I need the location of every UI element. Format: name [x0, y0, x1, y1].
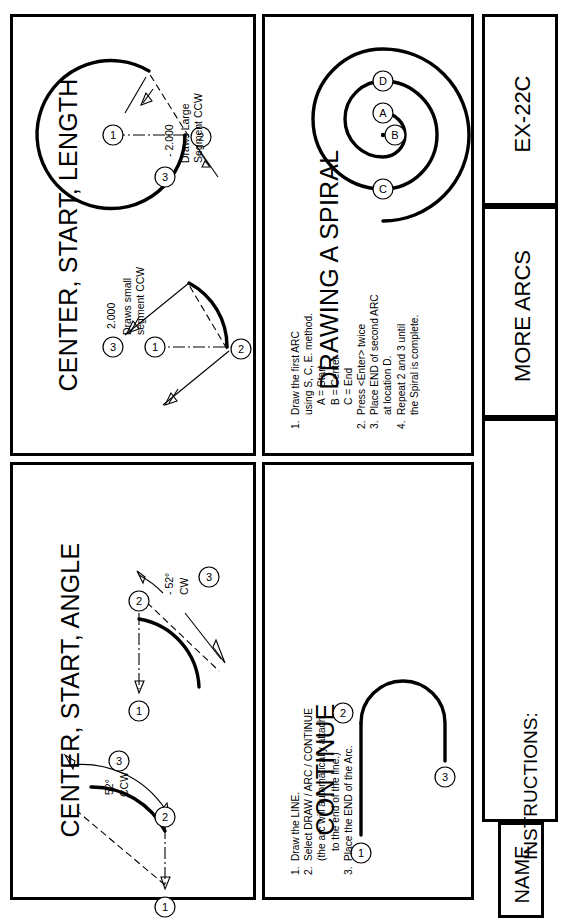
panel-center-start-length: CENTER, START, LENGTH 1 2 — [10, 14, 256, 456]
svg-text:1: 1 — [136, 705, 142, 717]
large-segment-annotation: - 2.000 — [163, 124, 176, 157]
angle-ccw-direction-wrap: CCW — [118, 772, 131, 797]
panel-continue: CONTINUE 1 2 3 1.Draw the LINE. 2.Select… — [262, 462, 474, 900]
callout-bubble-1: 1 — [155, 897, 175, 917]
length-dim-value-small: 2.000 — [105, 303, 118, 329]
angle-value-ccw: 52° — [103, 779, 116, 795]
callout-bubble-1: 1 — [103, 125, 123, 145]
center-start-length-figures: 1 2 3 1 — [13, 17, 253, 453]
title-block-sheet-title-cell: MORE ARCS — [482, 206, 558, 418]
svg-text:2: 2 — [162, 811, 168, 823]
svg-text:3: 3 — [116, 755, 122, 767]
large-segment-note: Draws Large Segment CCW — [179, 93, 205, 163]
svg-text:A: A — [379, 107, 387, 119]
spiral-steps: 1.Draw the first ARC using S, C, E. meth… — [289, 294, 421, 429]
callout-bubble-3: 3 — [435, 767, 455, 787]
angle-value-cw: - 52° — [163, 573, 176, 595]
small-segment-dim: 2.000 — [105, 303, 118, 329]
svg-text:C: C — [379, 183, 387, 195]
callout-bubble-3: 3 — [199, 567, 219, 587]
spiral-label-A: A — [373, 103, 393, 123]
svg-text:2: 2 — [136, 595, 142, 607]
angle-direction-ccw: CCW — [118, 772, 131, 797]
svg-text:3: 3 — [206, 571, 212, 583]
callout-bubble-1: 1 — [145, 337, 165, 357]
callout-bubble-1: 1 — [129, 701, 149, 721]
sheet-title: MORE ARCS — [510, 216, 536, 416]
angle-direction-cw: CW — [178, 578, 191, 596]
callout-bubble-3: 3 — [109, 751, 129, 771]
angle-cw-annotation: - 52° — [163, 573, 176, 595]
svg-text:1: 1 — [110, 129, 116, 141]
svg-text:3: 3 — [442, 771, 448, 783]
center-start-angle-figures: 1 2 3 1 2 — [13, 465, 253, 897]
spiral-label-D: D — [373, 71, 393, 91]
callout-bubble-2: 2 — [155, 807, 175, 827]
angle-cw-direction-wrap: CW — [178, 578, 191, 596]
svg-text:3: 3 — [162, 171, 168, 183]
small-segment-note: Draws small segment CCW — [121, 267, 147, 335]
panel-drawing-a-spiral: DRAWING A SPIRAL A B C D 1. — [262, 14, 474, 456]
worksheet-page: CENTER, START, LENGTH 1 2 — [0, 0, 568, 919]
callout-bubble-3: 3 — [155, 167, 175, 187]
spiral-label-B: B — [385, 125, 405, 145]
continue-steps: 1.Draw the LINE. 2.Select DRAW / ARC / C… — [289, 708, 355, 875]
svg-text:B: B — [391, 129, 398, 141]
svg-text:1: 1 — [162, 901, 168, 913]
svg-text:2: 2 — [238, 343, 244, 355]
drawing-number: EX-22C — [510, 24, 536, 204]
panel-center-start-angle: CENTER, START, ANGLE 1 2 3 — [10, 462, 256, 900]
title-block-drawing-number-cell: EX-22C — [482, 14, 558, 206]
spiral-label-C: C — [373, 179, 393, 199]
angle-ccw-annotation: 52° — [103, 779, 116, 795]
length-dim-value-large: - 2.000 — [163, 124, 176, 157]
instructions-label: INSTRUCTIONS: — [520, 712, 542, 860]
callout-bubble-2: 2 — [129, 591, 149, 611]
svg-text:1: 1 — [152, 341, 158, 353]
svg-text:1: 1 — [358, 847, 364, 859]
callout-bubble-3: 3 — [103, 337, 123, 357]
callout-bubble-2: 2 — [231, 339, 251, 359]
svg-text:3: 3 — [110, 341, 116, 353]
svg-text:D: D — [379, 75, 387, 87]
